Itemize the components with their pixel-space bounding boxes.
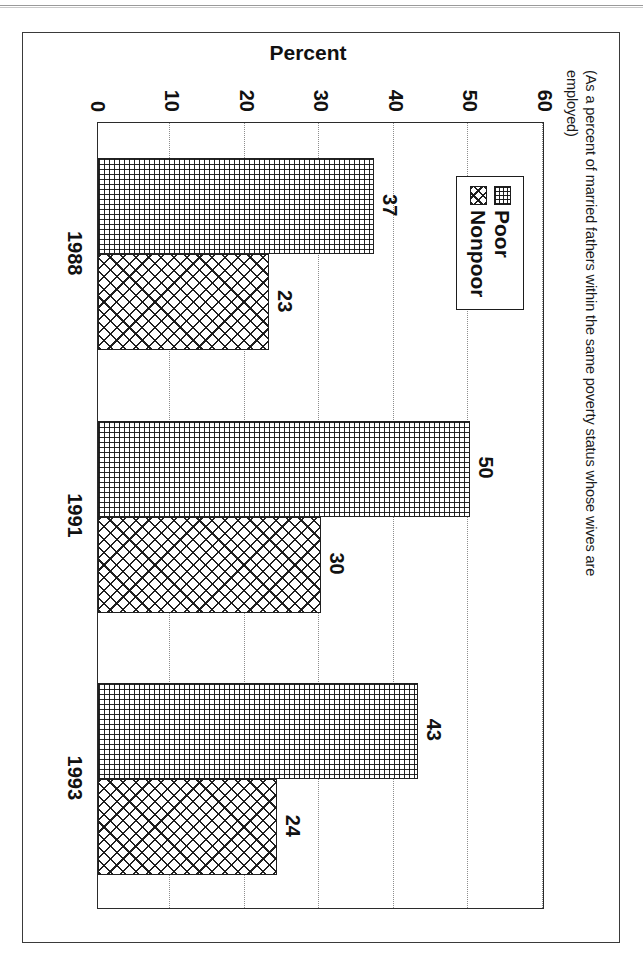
y-axis-tick-label: 0: [86, 66, 109, 112]
bar-1988-nonpoor: [98, 254, 269, 350]
rotated-chart-stage: (As a percent of married fathers within …: [22, 32, 620, 943]
legend-swatch-poor-icon: [494, 186, 511, 205]
y-axis-tick-label: 10: [160, 66, 183, 112]
chart-subtitle: (As a percent of married fathers within …: [562, 70, 600, 770]
chart-subtitle-line-2: employed): [562, 70, 581, 770]
bar-1988-poor: [98, 158, 374, 254]
legend-item-poor: Poor: [492, 186, 513, 297]
x-axis-tick-label-1988: 1988: [63, 193, 86, 313]
legend-label-poor: Poor: [492, 210, 513, 258]
bar-value-label-1993-poor: 43: [422, 700, 445, 760]
chart-figure: (As a percent of married fathers within …: [22, 32, 620, 943]
y-axis-tick-label: 30: [309, 66, 332, 112]
chart-subtitle-line-1: (As a percent of married fathers within …: [581, 70, 600, 770]
bar-1991-poor: [98, 421, 471, 517]
y-axis-title: Percent: [269, 41, 346, 65]
page-edge-line-top-secondary: [0, 7, 643, 8]
bar-1991-nonpoor: [98, 517, 322, 613]
y-axis-tick-label: 40: [384, 66, 407, 112]
bar-value-label-1993-nonpoor: 24: [281, 796, 304, 856]
gridline: [542, 123, 543, 908]
bar-value-label-1988-nonpoor: 23: [273, 271, 296, 331]
bar-1993-nonpoor: [98, 779, 277, 875]
y-axis-tick-label: 20: [235, 66, 258, 112]
bar-value-label-1991-nonpoor: 30: [326, 534, 349, 594]
legend-swatch-nonpoor-icon: [470, 186, 487, 205]
x-axis-tick-label-1991: 1991: [63, 456, 86, 576]
page-edge-line-top: [0, 5, 643, 6]
bar-value-label-1991-poor: 50: [475, 438, 498, 498]
chart-legend: Poor Nonpoor: [456, 176, 524, 310]
bar-value-label-1988-poor: 37: [378, 175, 401, 235]
x-axis-tick-label-1993: 1993: [63, 718, 86, 838]
bar-1993-poor: [98, 683, 418, 779]
legend-label-nonpoor: Nonpoor: [468, 210, 489, 297]
y-axis-tick-label: 60: [533, 66, 556, 112]
y-axis-tick-label: 50: [458, 66, 481, 112]
legend-item-nonpoor: Nonpoor: [468, 186, 489, 297]
